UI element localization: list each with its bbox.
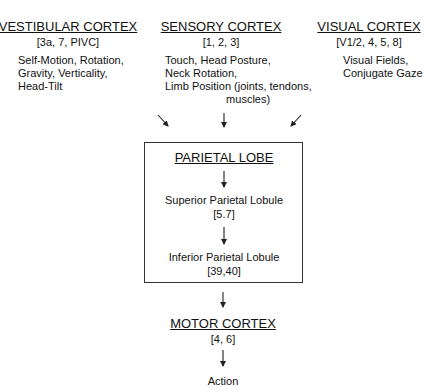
vestibular-cortex-node: VESTIBULAR CORTEX [3a, 7, PIVC] bbox=[0, 19, 137, 48]
arrow-visual-to-parietal-icon bbox=[291, 115, 301, 126]
visual-cortex-node: VISUAL CORTEX [V1/2, 4, 5, 8] bbox=[317, 19, 420, 48]
inferior-parietal-lobule-label: Inferior Parietal Lobule bbox=[169, 251, 280, 263]
visual-cortex-areas: [V1/2, 4, 5, 8] bbox=[317, 36, 420, 48]
sensory-cortex-title: SENSORY CORTEX bbox=[161, 19, 282, 34]
motor-cortex-areas: [4, 6] bbox=[211, 333, 235, 345]
visual-cortex-title: VISUAL CORTEX bbox=[317, 19, 420, 34]
vestibular-cortex-description: Self-Motion, Rotation, Gravity, Vertical… bbox=[18, 54, 124, 93]
superior-parietal-lobule-label: Superior Parietal Lobule bbox=[165, 194, 283, 206]
motor-cortex-title: MOTOR CORTEX bbox=[170, 316, 276, 331]
visual-cortex-description: Visual Fields, Conjugate Gaze bbox=[343, 54, 423, 80]
vestibular-cortex-title: VESTIBULAR CORTEX bbox=[0, 19, 137, 34]
sensory-cortex-description: Touch, Head Posture, Neck Rotation, Limb… bbox=[165, 54, 312, 106]
superior-parietal-lobule-areas: [5.7] bbox=[213, 208, 234, 220]
action-label: Action bbox=[208, 375, 239, 387]
sensory-cortex-areas: [1, 2, 3] bbox=[161, 36, 282, 48]
arrow-vestibular-to-parietal-icon bbox=[158, 115, 168, 126]
inferior-parietal-lobule-areas: [39,40] bbox=[207, 265, 241, 277]
parietal-lobe-title: PARIETAL LOBE bbox=[175, 150, 274, 165]
vestibular-cortex-areas: [3a, 7, PIVC] bbox=[0, 36, 137, 48]
sensory-cortex-node: SENSORY CORTEX [1, 2, 3] bbox=[161, 19, 282, 48]
